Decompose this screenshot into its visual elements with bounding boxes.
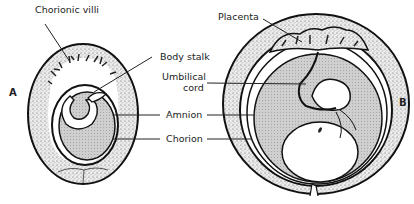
panel-label-a: A xyxy=(9,87,17,98)
label-body-stalk: Body stalk xyxy=(160,52,210,62)
label-umbilical-cord-line2: cord xyxy=(183,83,204,93)
label-umbilical-cord-line1: Umbilical xyxy=(162,72,206,82)
panel-a-uterus xyxy=(28,44,138,184)
embryo-diagram xyxy=(0,0,414,204)
label-amnion: Amnion xyxy=(166,110,202,120)
label-chorion: Chorion xyxy=(166,134,203,144)
label-chorionic-villi: Chorionic villi xyxy=(35,5,99,15)
label-placenta: Placenta xyxy=(218,12,259,22)
panel-label-b: B xyxy=(399,97,407,108)
panel-b-uterus xyxy=(223,14,409,196)
